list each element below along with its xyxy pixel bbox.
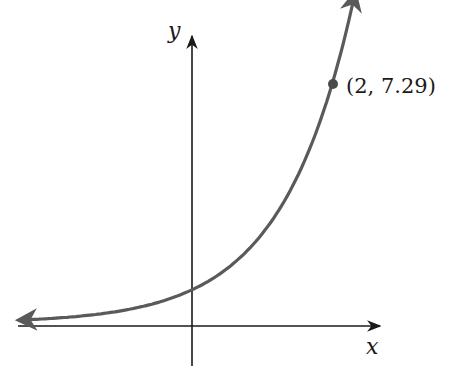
x-axis-label: x <box>366 334 379 359</box>
point-label: (2, 7.29) <box>346 74 436 98</box>
exponential-graph: (2, 7.29) y x <box>0 0 469 389</box>
exponential-curve <box>19 0 355 320</box>
highlighted-point <box>328 79 338 89</box>
y-axis-label: y <box>167 18 181 43</box>
